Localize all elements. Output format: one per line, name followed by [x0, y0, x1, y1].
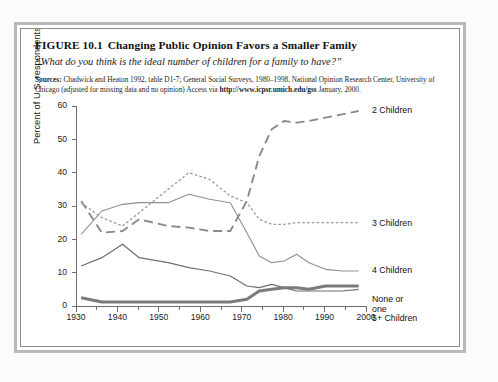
figure-number: FIGURE 10.1 [35, 39, 103, 51]
figure-subtitle: “What do you think is the ideal number o… [35, 55, 447, 68]
x-tick-mark [117, 307, 118, 312]
series-label-3-children: 3 Children [372, 218, 412, 228]
series-label-2-children: 2 Children [372, 105, 412, 115]
x-tick-mark-minor [179, 307, 180, 310]
x-tick-mark [366, 307, 367, 312]
y-tick-label: 60 [45, 100, 67, 110]
x-tick-mark [241, 307, 242, 312]
x-tick-mark [76, 307, 77, 312]
x-tick-mark [324, 307, 325, 312]
figure-title-text: Changing Public Opinion Favors a Smaller… [108, 39, 357, 51]
series-label-5-children: 5+ Children [372, 313, 417, 323]
x-tick-mark-minor [221, 307, 222, 310]
series-line-3-children [81, 173, 359, 226]
series-line-2-children [81, 111, 359, 233]
x-tick-label: 1940 [99, 312, 135, 322]
series-label-none-or: None or [372, 294, 403, 304]
sources-line-3: January, 2000. [317, 85, 361, 94]
x-tick-mark-minor [96, 307, 97, 310]
figure-content: FIGURE 10.1Changing Public Opinion Favor… [21, 29, 459, 346]
x-tick-mark [283, 307, 284, 312]
x-tick-label: 1980 [265, 312, 301, 322]
x-tick-mark-minor [262, 307, 263, 310]
y-tick-label: 40 [45, 167, 67, 177]
x-tick-label: 1970 [224, 312, 260, 322]
series-label-4-children: 4 Children [372, 265, 412, 275]
x-tick-mark [200, 307, 201, 312]
y-tick-label: 0 [45, 300, 67, 310]
x-tick-label: 1960 [182, 312, 218, 322]
series-canvas [77, 106, 367, 306]
figure-outer-frame: FIGURE 10.1Changing Public Opinion Favor… [14, 22, 466, 353]
y-tick-label: 50 [45, 134, 67, 144]
sources-url-part-2: icpsr.umich.edu/gss [256, 85, 317, 94]
figure-inner-frame: FIGURE 10.1Changing Public Opinion Favor… [20, 28, 460, 347]
y-tick-label: 10 [45, 267, 67, 277]
x-tick-mark-minor [138, 307, 139, 310]
x-tick-mark-minor [303, 307, 304, 310]
sources-url-part-1: http://www. [219, 85, 256, 94]
y-tick-label: 30 [45, 200, 67, 210]
series-line-none-or-one [81, 245, 359, 292]
x-tick-mark-minor [345, 307, 346, 310]
x-tick-label: 1930 [58, 312, 94, 322]
figure-page: FIGURE 10.1Changing Public Opinion Favor… [0, 0, 498, 382]
figure-sources: Sources: Chadwick and Heaton 1992, table… [35, 75, 443, 94]
x-tick-mark [158, 307, 159, 312]
y-tick-label: 20 [45, 234, 67, 244]
series-line-5-children [81, 286, 359, 302]
figure-title: FIGURE 10.1Changing Public Opinion Favor… [35, 38, 447, 52]
plot-area [76, 106, 367, 307]
x-tick-label: 1950 [141, 312, 177, 322]
line-chart: Percent of U.S. respondents 010203040506… [35, 100, 459, 328]
series-line-4-children [81, 195, 359, 272]
sources-line-1: Chadwick and Heaton 1992, table D1-7; Ge… [63, 75, 342, 84]
x-tick-label: 1990 [307, 312, 343, 322]
